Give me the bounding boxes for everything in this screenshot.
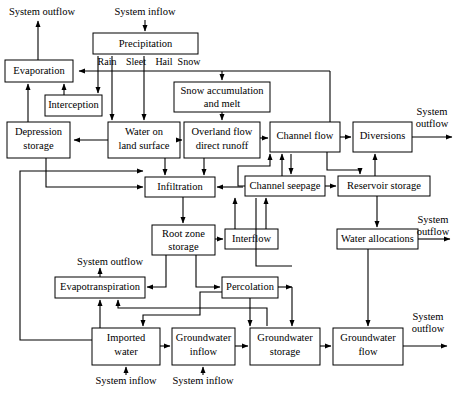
box-interception-label: Interception (48, 99, 99, 110)
box-groundwater-flow[interactable]: Groundwater flow (333, 328, 403, 365)
label-diversions-outflow-2: outflow (416, 118, 449, 129)
label-hail: Hail (155, 56, 172, 67)
box-channel-seepage-label: Channel seepage (250, 180, 321, 191)
box-precipitation[interactable]: Precipitation (93, 33, 198, 54)
box-snow-label-2: and melt (204, 98, 241, 109)
box-depression-storage[interactable]: Depression storage (7, 122, 70, 158)
box-groundwater-inflow-label-2: inflow (190, 346, 218, 357)
box-depression-storage-label-1: Depression (15, 126, 63, 137)
box-overland-label-1: Overland flow (192, 126, 253, 137)
box-depression-storage-label-2: storage (23, 140, 54, 151)
label-system-inflow-top: System inflow (115, 6, 176, 17)
box-diversions-label: Diversions (360, 130, 406, 141)
label-allocations-outflow-2: outflow (417, 226, 450, 237)
box-interflow-label: Interflow (232, 233, 271, 244)
box-infiltration[interactable]: Infiltration (145, 177, 215, 197)
label-groundwater-outflow-1: System (413, 311, 444, 322)
box-groundwater-flow-label-2: flow (358, 346, 378, 357)
box-interflow[interactable]: Interflow (225, 229, 278, 249)
box-groundwater-storage-label-2: storage (270, 346, 301, 357)
box-reservoir-storage-label: Reservoir storage (347, 180, 421, 191)
box-root-zone-label-1: Root zone (162, 228, 205, 239)
label-groundwater-inflow-label: System inflow (173, 375, 234, 386)
box-groundwater-inflow[interactable]: Groundwater inflow (172, 328, 235, 365)
box-water-allocations[interactable]: Water allocations (337, 229, 418, 249)
box-overland-label-2: direct runoff (196, 140, 249, 151)
box-water-on-land-label-1: Water on (125, 126, 164, 137)
box-channel-flow[interactable]: Channel flow (270, 122, 340, 152)
label-imported-inflow: System inflow (96, 375, 157, 386)
label-evapotranspiration-outflow: System outflow (77, 256, 144, 267)
hydrologic-system-diagram: System inflow System outflow Precipitati… (0, 0, 461, 394)
label-allocations-outflow-1: System (418, 214, 449, 225)
box-groundwater-storage[interactable]: Groundwater storage (250, 328, 320, 365)
box-imported-water[interactable]: Imported water (92, 328, 160, 365)
label-system-outflow-top-left: System outflow (9, 6, 76, 17)
box-percolation[interactable]: Percolation (222, 277, 278, 298)
box-interception[interactable]: Interception (45, 95, 102, 116)
box-water-on-land-label-2: land surface (118, 140, 169, 151)
box-evapotranspiration-label: Evapotranspiration (60, 281, 141, 292)
box-channel-seepage[interactable]: Channel seepage (245, 176, 325, 196)
box-overland-flow[interactable]: Overland flow direct runoff (184, 122, 260, 158)
box-water-allocations-label: Water allocations (341, 233, 414, 244)
box-infiltration-label: Infiltration (157, 181, 203, 192)
box-water-on-land-surface[interactable]: Water on land surface (108, 122, 180, 158)
label-groundwater-outflow-2: outflow (412, 323, 445, 334)
box-channel-flow-label: Channel flow (277, 130, 334, 141)
box-snow-label-1: Snow accumulation (180, 85, 264, 96)
box-root-zone-label-2: storage (168, 241, 199, 252)
box-evaporation[interactable]: Evaporation (5, 60, 73, 82)
label-sleet: Sleet (126, 56, 146, 67)
box-evapotranspiration[interactable]: Evapotranspiration (55, 277, 145, 298)
label-diversions-outflow-1: System (417, 106, 448, 117)
label-snow: Snow (178, 56, 202, 67)
box-imported-water-label-1: Imported (107, 332, 146, 343)
box-groundwater-storage-label-1: Groundwater (257, 332, 313, 343)
box-imported-water-label-2: water (114, 346, 138, 357)
box-reservoir-storage[interactable]: Reservoir storage (338, 176, 430, 196)
box-groundwater-flow-label-1: Groundwater (340, 332, 396, 343)
box-root-zone-storage[interactable]: Root zone storage (152, 225, 215, 255)
label-rain: Rain (98, 56, 117, 67)
box-snow-accumulation[interactable]: Snow accumulation and melt (174, 82, 270, 112)
box-precipitation-label: Precipitation (119, 38, 173, 49)
box-percolation-label: Percolation (226, 281, 275, 292)
box-diversions[interactable]: Diversions (353, 122, 412, 152)
box-evaporation-label: Evaporation (13, 65, 65, 76)
box-groundwater-inflow-label-1: Groundwater (176, 332, 232, 343)
